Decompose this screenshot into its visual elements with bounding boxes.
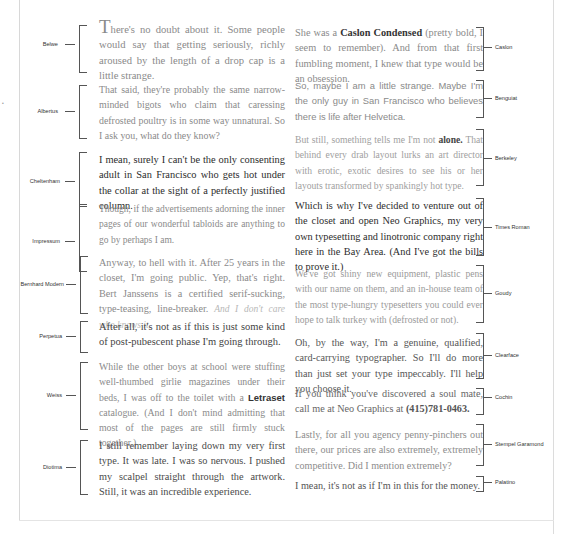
font-label: Albertus xyxy=(30,108,58,115)
font-label: Benguiat xyxy=(495,95,517,102)
bracket xyxy=(476,424,484,466)
label-tick xyxy=(65,181,75,182)
font-label: Times Roman xyxy=(495,224,530,231)
font-label: Berkeley xyxy=(495,155,517,162)
bracket xyxy=(476,265,484,323)
paragraph: That said, they're probably the same nar… xyxy=(99,82,285,143)
paragraph: So, maybe I am a little strange. Maybe I… xyxy=(295,78,483,124)
bracket xyxy=(80,362,88,430)
label-tick xyxy=(66,336,76,337)
label-tick xyxy=(484,293,492,294)
paragraph: We've got shiny new equipment, plastic p… xyxy=(295,266,483,327)
paragraph: There's no doubt about it. Some people w… xyxy=(99,22,285,83)
paragraph: After all, it's not as if this is just s… xyxy=(99,319,285,350)
font-label: Bernhard Modern xyxy=(8,281,64,288)
label-tick xyxy=(66,395,76,396)
font-label: Cheltenham xyxy=(14,178,60,185)
font-label: Weiss xyxy=(30,392,62,399)
label-tick xyxy=(66,467,76,468)
bracket xyxy=(79,25,87,73)
paragraph: I still remember laying down my very fir… xyxy=(99,438,285,499)
label-tick xyxy=(484,482,492,483)
label-tick xyxy=(484,227,492,228)
paragraph: She was a Caslon Condensed (pretty bold,… xyxy=(295,25,483,86)
label-tick xyxy=(484,47,492,48)
bracket xyxy=(80,440,88,495)
font-label: Palatino xyxy=(495,479,515,486)
bracket xyxy=(476,80,484,118)
label-tick xyxy=(484,444,492,445)
paragraph: Lastly, for all you agency penny-pincher… xyxy=(295,427,483,473)
paragraph: Though, if the advertisements adorning t… xyxy=(99,202,285,248)
font-label: Clearface xyxy=(495,352,519,359)
paragraph: But still, something tells me I'm not al… xyxy=(295,132,483,193)
label-tick xyxy=(65,111,75,112)
bracket xyxy=(476,388,484,415)
bracket xyxy=(79,85,87,139)
paragraph: While the other boys at school were stuf… xyxy=(99,359,285,451)
label-tick xyxy=(484,158,492,159)
bracket xyxy=(80,321,88,353)
paragraph: I mean, it's not as if I'm in this for t… xyxy=(295,478,495,493)
bracket xyxy=(476,129,484,186)
label-tick xyxy=(484,355,492,356)
font-label: Cochin xyxy=(495,394,512,401)
font-label: Stempel Garamond xyxy=(495,441,544,448)
margin-mark: • xyxy=(2,100,4,106)
bracket xyxy=(80,256,88,314)
bracket xyxy=(476,333,484,379)
label-tick xyxy=(484,397,492,398)
font-label: Goudy xyxy=(495,290,511,297)
font-label: Impressum xyxy=(14,238,60,245)
page-left-border xyxy=(19,0,20,520)
font-label: Belwe xyxy=(30,41,58,48)
label-tick xyxy=(65,241,75,242)
paragraph: Which is why I've decided to venture out… xyxy=(295,198,483,274)
bracket xyxy=(476,27,484,71)
label-tick xyxy=(66,284,76,285)
page-right-border xyxy=(553,0,554,534)
font-label: Diotima xyxy=(30,464,62,471)
bracket xyxy=(79,152,87,207)
paragraph: If you think you've discovered a soul ma… xyxy=(295,386,483,417)
page-bottom-border xyxy=(19,520,554,521)
label-tick xyxy=(65,44,75,45)
font-label: Perpetua xyxy=(30,333,62,340)
font-label: Caslon xyxy=(495,44,512,51)
bracket xyxy=(476,476,484,492)
label-tick xyxy=(484,98,492,99)
bracket xyxy=(476,198,484,256)
